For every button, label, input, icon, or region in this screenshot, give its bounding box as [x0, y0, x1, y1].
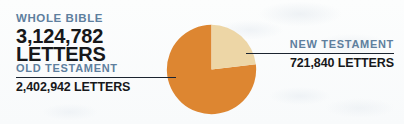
pie-chart-svg [164, 22, 259, 117]
new-testament-rule [246, 53, 394, 54]
whole-bible-kicker: WHOLE BIBLE [16, 12, 166, 25]
old-testament-kicker: OLD TESTAMENT [16, 62, 176, 75]
old-testament-callout: OLD TESTAMENT 2,402,942 LETTERS [16, 62, 176, 94]
whole-bible-block: WHOLE BIBLE 3,124,782 LETTERS [16, 12, 166, 64]
pie-chart [164, 22, 259, 117]
new-testament-value: 721,840 LETTERS [246, 56, 394, 70]
old-testament-value: 2,402,942 LETTERS [16, 80, 176, 94]
old-testament-rule [16, 77, 176, 78]
bible-letters-infographic: WHOLE BIBLE 3,124,782 LETTERS OLD TESTAM… [0, 0, 404, 124]
new-testament-callout: NEW TESTAMENT 721,840 LETTERS [246, 38, 394, 70]
new-testament-kicker: NEW TESTAMENT [246, 38, 394, 51]
